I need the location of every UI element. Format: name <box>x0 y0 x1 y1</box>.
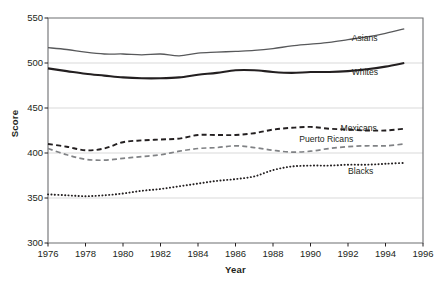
series-label-puerto-ricans: Puerto Ricans <box>299 134 353 144</box>
x-tick-label: 1994 <box>366 248 406 259</box>
x-tick-label: 1984 <box>178 248 218 259</box>
y-tick-label: 350 <box>7 192 43 203</box>
x-tick-label: 1980 <box>103 248 143 259</box>
plot-area <box>0 0 443 289</box>
series-label-blacks: Blacks <box>348 166 373 176</box>
x-axis-title: Year <box>48 264 423 275</box>
y-tick-label: 550 <box>7 12 43 23</box>
y-tick-label: 300 <box>7 237 43 248</box>
y-tick-label: 450 <box>7 102 43 113</box>
x-tick-label: 1988 <box>253 248 293 259</box>
x-tick-label: 1992 <box>328 248 368 259</box>
series-line-puerto-ricans <box>48 144 404 160</box>
x-tick-label: 1990 <box>291 248 331 259</box>
x-tick-label: 1986 <box>216 248 256 259</box>
x-tick-label: 1982 <box>141 248 181 259</box>
x-tick-label: 1996 <box>403 248 443 259</box>
x-tick-label: 1976 <box>28 248 68 259</box>
series-label-mexicans: Mexicans <box>341 123 377 133</box>
y-tick-label: 400 <box>7 147 43 158</box>
series-label-whites: Whites <box>352 67 378 77</box>
chart-container: Score Year 300350400450500550 1976197819… <box>0 0 443 289</box>
series-label-asians: Asians <box>352 33 378 43</box>
x-tick-label: 1978 <box>66 248 106 259</box>
y-tick-label: 500 <box>7 57 43 68</box>
